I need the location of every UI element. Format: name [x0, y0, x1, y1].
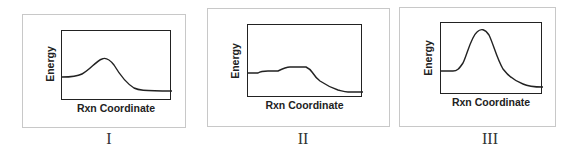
panel-II-y-axis-label: Energy: [229, 36, 243, 86]
panel-I-caption: I: [94, 130, 124, 148]
panel-III-caption: III: [470, 130, 510, 148]
panel-I-plot-area: [61, 30, 171, 100]
panel-I-y-axis-label: Energy: [44, 39, 58, 89]
panel-I-x-axis-label: Rxn Coordinate: [61, 102, 171, 114]
panel-II-caption: II: [283, 130, 323, 148]
panel-I-energy-curve: [62, 31, 172, 101]
panel-III-x-axis-label: Rxn Coordinate: [440, 96, 542, 108]
panel-III-plot-area: [440, 22, 542, 94]
panel-III-y-axis-label: Energy: [422, 33, 436, 83]
panel-II-x-axis-label: Rxn Coordinate: [247, 99, 362, 111]
panel-III-energy-curve: [441, 23, 543, 95]
panel-II-energy-curve: [248, 25, 363, 98]
panel-II-plot-area: [247, 24, 362, 97]
